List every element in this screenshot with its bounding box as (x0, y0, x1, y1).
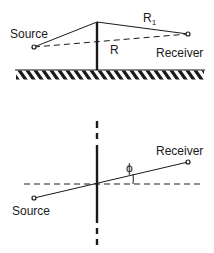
diffracted-path-label: R1 (143, 11, 157, 27)
source-point (32, 45, 36, 49)
angle-label: ϕ (126, 161, 133, 175)
receiver-point (186, 160, 190, 164)
receiver-label: Receiver (156, 144, 203, 158)
top-diagram: Source Receiver R R1 (10, 11, 205, 80)
direct-path-label: R (110, 43, 119, 57)
source-label: Source (10, 27, 48, 41)
source-point (32, 196, 36, 200)
receiver-point (186, 32, 190, 36)
diffracted-path-label-main: R (143, 11, 152, 25)
bottom-diagram: Source Receiver ϕ (12, 121, 203, 245)
source-label: Source (12, 204, 50, 218)
diagram-canvas: Source Receiver R R1 Source Receiver ϕ (0, 0, 214, 253)
diffracted-path-label-subscript: 1 (152, 18, 157, 27)
receiver-label: Receiver (156, 46, 203, 60)
propagation-path (34, 162, 188, 198)
ground-hatching (16, 71, 204, 80)
